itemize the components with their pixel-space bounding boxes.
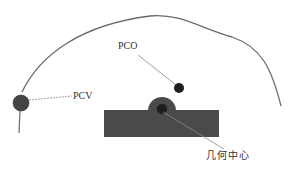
antenna-phase-center-diagram bbox=[0, 0, 295, 178]
pco-label: PCO bbox=[118, 41, 137, 51]
pcv-label: PCV bbox=[73, 91, 92, 101]
pcv-vertical-line bbox=[19, 110, 20, 133]
pcv-dot bbox=[13, 95, 29, 111]
phase-pattern-curve bbox=[22, 16, 281, 106]
pco-leader-line bbox=[138, 55, 176, 85]
pco-dot bbox=[174, 83, 184, 93]
pcv-leader-line bbox=[29, 96, 72, 100]
geometric-center-dot bbox=[157, 104, 167, 114]
geometric-center-label: 几何中心 bbox=[206, 151, 250, 161]
